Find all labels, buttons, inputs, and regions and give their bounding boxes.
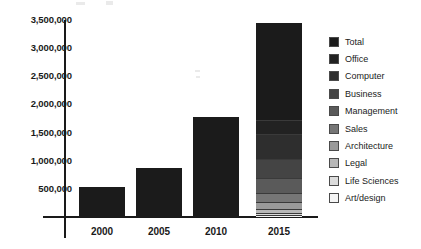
legend-swatch-icon (329, 106, 339, 116)
y-axis-tick-label: 500,000 (4, 184, 72, 194)
bar-segment-business[interactable] (256, 159, 302, 179)
legend-item-label: Legal (345, 158, 367, 168)
bar-segment-computer[interactable] (256, 134, 302, 158)
y-axis-tick-label: 3,500,000 (4, 15, 72, 25)
bar-segment-office[interactable] (256, 120, 302, 135)
legend-item-label: Management (345, 106, 398, 116)
plot-area (66, 20, 318, 217)
legend-item-architecture[interactable]: Architecture (329, 137, 421, 154)
legend-swatch-icon (329, 193, 339, 203)
x-axis-tick-label: 2010 (181, 226, 251, 237)
legend-item-computer[interactable]: Computer (329, 68, 421, 85)
stacked-bar-chart: 3,500,0003,000,0002,500,0002,000,0001,50… (0, 0, 421, 249)
y-axis-tick-label: 1,000,000 (4, 156, 72, 166)
legend-swatch-icon (329, 89, 339, 99)
bar-2010[interactable] (193, 117, 239, 217)
y-axis-tick-labels: 3,500,0003,000,0002,500,0002,000,0001,50… (0, 0, 72, 249)
scan-artifact (76, 2, 85, 5)
bar-segment-art-design[interactable] (256, 215, 302, 217)
legend-swatch-icon (329, 158, 339, 168)
bar-2000[interactable] (79, 187, 125, 217)
legend-item-art-design[interactable]: Art/design (329, 190, 421, 207)
legend-item-label: Total (345, 37, 364, 47)
legend-item-label: Architecture (345, 141, 393, 151)
legend-item-office[interactable]: Office (329, 50, 421, 67)
legend-swatch-icon (329, 71, 339, 81)
legend-item-total[interactable]: Total (329, 33, 421, 50)
legend-item-business[interactable]: Business (329, 85, 421, 102)
legend-item-life-sciences[interactable]: Life Sciences (329, 172, 421, 189)
legend-item-label: Sales (345, 124, 368, 134)
bar-segment-total[interactable] (256, 23, 302, 119)
legend-item-label: Art/design (345, 193, 386, 203)
legend-swatch-icon (329, 37, 339, 47)
bar-segment-architecture[interactable] (256, 202, 302, 209)
y-axis-tick-label: 2,000,000 (4, 99, 72, 109)
legend-swatch-icon (329, 54, 339, 64)
bar-segment-sales[interactable] (256, 193, 302, 202)
legend-item-label: Computer (345, 71, 385, 81)
legend-swatch-icon (329, 141, 339, 151)
bar-segment-management[interactable] (256, 178, 302, 193)
y-axis-tick-label: 3,000,000 (4, 43, 72, 53)
legend-swatch-icon (329, 176, 339, 186)
x-axis-tick-label: 2015 (244, 226, 314, 237)
chart-legend: TotalOfficeComputerBusinessManagementSal… (329, 33, 421, 207)
y-axis-tick-label: 1,500,000 (4, 128, 72, 138)
legend-item-legal[interactable]: Legal (329, 155, 421, 172)
legend-item-sales[interactable]: Sales (329, 120, 421, 137)
y-axis-tick-label: 2,500,000 (4, 71, 72, 81)
legend-swatch-icon (329, 124, 339, 134)
bar-2015[interactable] (256, 23, 302, 217)
legend-item-label: Office (345, 54, 368, 64)
legend-item-label: Business (345, 89, 382, 99)
scan-artifact (106, 1, 113, 5)
bar-2005[interactable] (136, 168, 182, 217)
legend-item-management[interactable]: Management (329, 103, 421, 120)
legend-item-label: Life Sciences (345, 176, 399, 186)
